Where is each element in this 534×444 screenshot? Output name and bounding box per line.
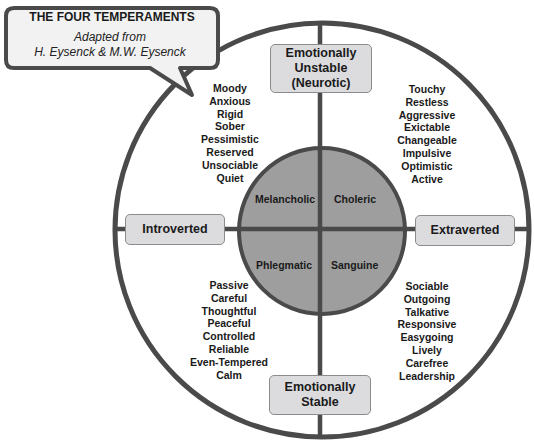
trait-item: Careful (181, 292, 277, 305)
temperament-sanguine: Sanguine (331, 259, 378, 271)
temperament-melancholic: Melancholic (255, 193, 315, 205)
trait-item: Talkative (380, 306, 474, 319)
trait-item: Passive (181, 279, 277, 292)
trait-item: Moody (190, 82, 270, 95)
axis-bottom-line-2: Stable (285, 395, 356, 410)
traits-choleric: Touchy Restless Aggressive Exictable Cha… (384, 83, 470, 185)
trait-item: Thoughtful (181, 305, 277, 318)
trait-item: Easygoing (380, 331, 474, 344)
trait-item: Leadership (380, 370, 474, 383)
trait-item: Quiet (190, 172, 270, 185)
trait-item: Pessimistic (190, 133, 270, 146)
trait-item: Sober (190, 120, 270, 133)
axis-top-line-1: Emotionally (286, 46, 357, 61)
axis-right-text: Extraverted (431, 223, 500, 238)
trait-item: Unsociable (190, 159, 270, 172)
trait-item: Controlled (181, 330, 277, 343)
axis-top-line-2: Unstable (286, 61, 357, 76)
trait-item: Changeable (384, 134, 470, 147)
trait-item: Impulsive (384, 147, 470, 160)
axis-label-unstable: Emotionally Unstable (Neurotic) (270, 44, 372, 93)
temperament-phlegmatic: Phlegmatic (256, 259, 312, 271)
trait-item: Rigid (190, 108, 270, 121)
trait-item: Touchy (384, 83, 470, 96)
traits-melancholic: Moody Anxious Rigid Sober Pessimistic Re… (190, 82, 270, 184)
trait-item: Lively (380, 344, 474, 357)
trait-item: Sociable (380, 280, 474, 293)
temperament-choleric: Choleric (334, 193, 376, 205)
trait-item: Active (384, 173, 470, 186)
axis-left-text: Introverted (142, 222, 207, 237)
trait-item: Reliable (181, 343, 277, 356)
subtitle-line-2: H. Eysenck & M.W. Eysenck (10, 45, 210, 60)
traits-phlegmatic: Passive Careful Thoughtful Peaceful Cont… (181, 279, 277, 381)
trait-item: Aggressive (384, 109, 470, 122)
trait-item: Peaceful (181, 317, 277, 330)
subtitle-line-1: Adapted from (10, 30, 210, 45)
trait-item: Restless (384, 96, 470, 109)
traits-sanguine: Sociable Outgoing Talkative Responsive E… (380, 280, 474, 382)
trait-item: Anxious (190, 95, 270, 108)
trait-item: Optimistic (384, 160, 470, 173)
axis-bottom-line-1: Emotionally (285, 380, 356, 395)
diagram-subtitle: Adapted from H. Eysenck & M.W. Eysenck (10, 30, 210, 60)
trait-item: Calm (181, 369, 277, 382)
trait-item: Carefree (380, 357, 474, 370)
trait-item: Outgoing (380, 293, 474, 306)
diagram-title: THE FOUR TEMPERAMENTS (14, 10, 210, 24)
trait-item: Even-Tempered (181, 356, 277, 369)
axis-label-extraverted: Extraverted (415, 215, 515, 246)
trait-item: Responsive (380, 318, 474, 331)
trait-item: Reserved (190, 146, 270, 159)
axis-label-stable: Emotionally Stable (269, 375, 371, 415)
trait-item: Exictable (384, 121, 470, 134)
axis-top-line-3: (Neurotic) (286, 76, 357, 91)
axis-label-introverted: Introverted (125, 214, 225, 245)
